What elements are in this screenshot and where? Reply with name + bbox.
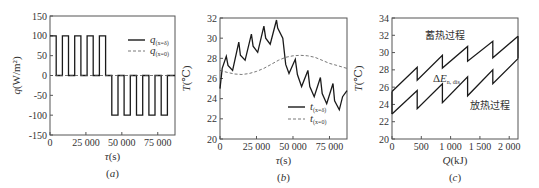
y-axis-label: T(℃)	[352, 65, 365, 91]
y-tick-label: 22	[207, 113, 217, 124]
x-axis-label: τ(s)	[276, 154, 292, 167]
y-tick-label: 22	[379, 116, 389, 127]
y-tick-label: 34	[379, 13, 389, 24]
y-tick-label: 26	[379, 82, 389, 93]
panel-caption: (c)	[449, 171, 462, 184]
figure-canvas: 025 00050 00075 000-150-100-50050100150τ…	[0, 0, 539, 188]
x-tick-label: 50 000	[279, 141, 307, 152]
y-tick-label: 24	[379, 99, 389, 110]
panel-caption: (a)	[106, 167, 119, 180]
plot-frame	[220, 18, 347, 139]
y-tick-label: 100	[32, 30, 47, 41]
panel-a: 025 00050 00075 000-150-100-50050100150τ…	[10, 11, 175, 181]
y-tick-label: 32	[379, 30, 389, 41]
x-axis-label: τ(s)	[105, 150, 121, 163]
y-tick-label: 28	[379, 64, 389, 75]
x-tick-label: 0	[48, 137, 53, 148]
x-tick-label: 0	[390, 141, 395, 152]
y-tick-label: 20	[379, 134, 389, 145]
y-tick-label: 30	[379, 47, 389, 58]
series-line	[220, 55, 347, 74]
panel-b: 025 00050 00075 00020222426283032τ(s)T(℃…	[180, 13, 347, 185]
x-tick-label: 75 000	[316, 141, 344, 152]
y-tick-label: -50	[34, 90, 47, 101]
y-axis-label: q(W/m²)	[10, 56, 23, 94]
x-tick-label: 75 000	[144, 137, 172, 148]
legend-label: t(x=0)	[310, 112, 326, 126]
x-tick-label: 25 000	[243, 141, 271, 152]
y-tick-label: 30	[207, 33, 217, 44]
y-tick-label: 20	[207, 134, 217, 145]
x-tick-label: 50 000	[108, 137, 136, 148]
y-tick-label: 26	[207, 73, 217, 84]
series-line	[220, 20, 347, 110]
y-tick-label: 28	[207, 53, 217, 64]
x-tick-label: 1 500	[469, 141, 492, 152]
x-tick-label: 25 000	[72, 137, 100, 148]
x-tick-label: 1 000	[439, 141, 462, 152]
x-axis-label: Q(kJ)	[442, 154, 467, 167]
x-tick-label: 2 000	[498, 141, 521, 152]
discharging-process-label: 放热过程	[470, 99, 510, 111]
charging-process-label: 蓄热过程	[425, 29, 465, 41]
legend-label: q(x=0)	[150, 44, 169, 58]
x-tick-label: 0	[218, 141, 223, 152]
panel-caption: (b)	[277, 171, 290, 184]
x-tick-label: 500	[414, 141, 429, 152]
y-tick-label: -150	[29, 130, 47, 141]
y-tick-label: 32	[207, 13, 217, 24]
delta-energy-label: ΔEn, dis	[433, 72, 460, 85]
y-tick-label: 50	[37, 50, 47, 61]
panel-c: 05001 0001 5002 0002022242628303234Q(kJ)…	[352, 13, 520, 185]
y-tick-label: 0	[42, 70, 47, 81]
y-axis-label: T(℃)	[180, 65, 193, 91]
y-tick-label: -100	[29, 110, 47, 121]
y-tick-label: 150	[32, 11, 47, 22]
y-tick-label: 24	[207, 93, 217, 104]
